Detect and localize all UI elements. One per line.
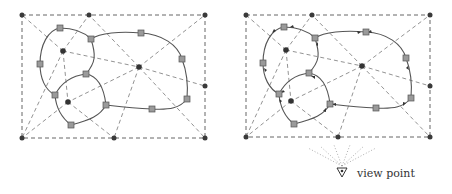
oriented-curves <box>263 27 411 124</box>
diagram-canvas: view point <box>0 0 452 194</box>
left-panel <box>20 13 208 141</box>
right-panel: view point <box>244 13 433 181</box>
view-rays <box>308 145 376 166</box>
orientation-arrows <box>264 25 409 112</box>
interior-sites <box>60 48 142 105</box>
eye-pupil <box>341 170 344 173</box>
closed-curves <box>40 28 187 125</box>
view-point-label: view point <box>356 167 415 180</box>
interior-sites <box>283 47 365 104</box>
view-point: view point <box>308 145 415 180</box>
boundary-points <box>20 13 208 141</box>
triangulation-spokes <box>246 15 430 137</box>
bounding-rectangle <box>246 15 430 137</box>
eye-icon <box>337 168 347 177</box>
